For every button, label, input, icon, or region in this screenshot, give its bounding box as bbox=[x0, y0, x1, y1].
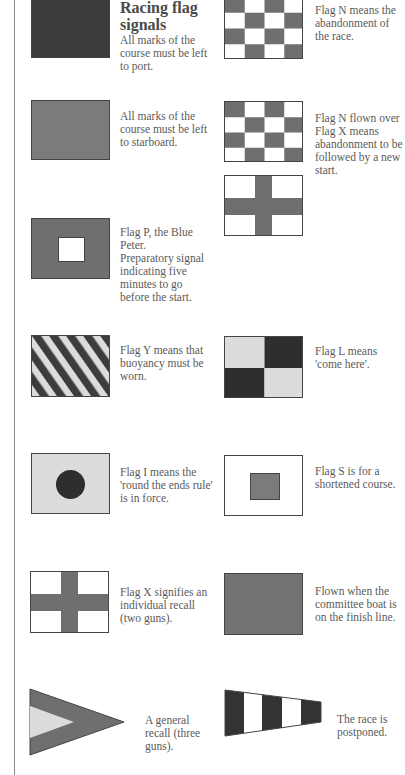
postponement-description: The race is postponed. bbox=[337, 713, 405, 739]
medium-gray-flag-image bbox=[31, 100, 110, 160]
flag-n-description: Flag N means the abandonment of the race… bbox=[315, 4, 405, 43]
flag-n-upper-image bbox=[224, 101, 303, 162]
first-substitute-pennant-image bbox=[28, 687, 126, 757]
flag-x-image bbox=[30, 571, 109, 633]
flag-s-description: Flag S is for a shortened course. bbox=[315, 465, 405, 491]
checkerboard-icon bbox=[225, 102, 303, 162]
flag-p-description-2: Preparatory signal indicating five minut… bbox=[120, 252, 212, 304]
flag-x-description: Flag X signifies an individual recall (t… bbox=[120, 586, 214, 625]
flag-i-image bbox=[31, 453, 110, 514]
flag-n-image bbox=[224, 0, 303, 59]
dark-flag-description: All marks of the course must be left to … bbox=[120, 34, 212, 73]
flag-i-description: Flag I means the 'round the ends rule' i… bbox=[120, 466, 216, 505]
flag-n-over-x-description: Flag N flown over Flag X means abandonme… bbox=[315, 112, 405, 177]
flag-x-horizontal-bar bbox=[225, 198, 303, 215]
flag-i-black-circle bbox=[56, 470, 85, 499]
general-recall-description: A general recall (three guns). bbox=[145, 714, 215, 753]
flag-p-description-1: Flag P, the Blue Peter. bbox=[120, 226, 212, 252]
flag-y-image bbox=[31, 335, 110, 397]
flag-x-horizontal-bar bbox=[31, 594, 109, 611]
diagonal-stripes-icon bbox=[32, 336, 110, 397]
checkerboard-icon bbox=[225, 0, 303, 59]
flag-x-lower-image bbox=[224, 175, 303, 236]
flag-s-center-square bbox=[250, 473, 280, 500]
flag-y-description: Flag Y means that buoyancy must be worn. bbox=[120, 344, 212, 383]
page-title: Racing flag signals bbox=[120, 0, 215, 33]
flag-p-image bbox=[31, 218, 110, 279]
flag-p-white-center bbox=[58, 237, 85, 262]
flag-l-image bbox=[224, 336, 303, 398]
blue-flag-description: Flown when the committee boat is on the … bbox=[315, 585, 405, 624]
flag-l-description: Flag L means 'come here'. bbox=[315, 345, 405, 371]
page-margin-rule bbox=[14, 0, 15, 775]
medium-flag-description: All marks of the course must be left to … bbox=[120, 110, 212, 149]
answering-pennant-image bbox=[224, 689, 323, 739]
dark-flag-image bbox=[31, 0, 110, 58]
blue-flag-image bbox=[224, 573, 303, 635]
flag-s-image bbox=[224, 455, 303, 516]
quartered-icon bbox=[225, 337, 303, 398]
